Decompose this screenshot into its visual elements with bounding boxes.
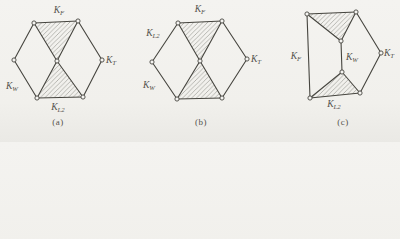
- subfigure-a: KFKTKWKL2: [5, 5, 117, 113]
- graph-vertex: [220, 19, 224, 23]
- graph-vertex: [55, 59, 59, 63]
- hatched-face: [34, 21, 78, 61]
- graph-vertex: [305, 12, 309, 16]
- graph-vertex: [354, 10, 358, 14]
- graph-vertex: [100, 58, 104, 62]
- graph-vertex: [340, 70, 344, 74]
- graph-vertex: [150, 60, 154, 64]
- hatched-face: [37, 61, 83, 98]
- graph-edge: [307, 14, 310, 98]
- graph-edge: [14, 23, 34, 60]
- graph-vertex: [35, 96, 39, 100]
- graph-edge: [78, 21, 102, 60]
- graph-vertex: [76, 19, 80, 23]
- graph-vertex: [32, 21, 36, 25]
- graph-label-KW: KW: [345, 52, 359, 63]
- graph-vertex: [245, 57, 249, 61]
- graph-edge: [222, 59, 247, 98]
- graph-edge: [83, 60, 102, 97]
- graph-label-KF: KF: [290, 51, 302, 62]
- graph-vertex: [358, 91, 362, 95]
- graph-vertex: [308, 96, 312, 100]
- graph-vertex: [198, 59, 202, 63]
- hatched-face: [178, 21, 222, 61]
- graph-edge: [14, 60, 37, 98]
- graph-edge: [341, 41, 342, 72]
- subfigure-c: KFKWKTKL2: [290, 10, 396, 110]
- hatched-face: [177, 61, 222, 99]
- subfigure-caption-c: (c): [337, 117, 349, 127]
- graph-edge: [152, 62, 177, 99]
- graph-label-KL2: KL2: [50, 102, 65, 113]
- graph-label-KF: KF: [53, 5, 65, 16]
- graph-label-KL2: KL2: [326, 99, 341, 110]
- graph-label-KT: KT: [383, 48, 395, 59]
- subfigure-caption-b: (b): [195, 117, 207, 127]
- graph-label-KT: KT: [250, 54, 262, 65]
- graph-vertex: [339, 39, 343, 43]
- graph-label-KL2: KL2: [145, 28, 160, 39]
- graph-vertex: [379, 51, 383, 55]
- graph-edge: [356, 12, 381, 53]
- graph-vertex: [81, 95, 85, 99]
- graph-vertex: [12, 58, 16, 62]
- graph-edge: [222, 21, 247, 59]
- graph-label-KT: KT: [105, 55, 117, 66]
- graph-vertex: [176, 21, 180, 25]
- graph-figure: KFKTKWKL2KFKL2KWKTKFKWKTKL2 (a) (b) (c): [0, 0, 400, 142]
- graph-vertex: [175, 97, 179, 101]
- subfigure-caption-a: (a): [52, 117, 64, 127]
- graph-vertex: [220, 96, 224, 100]
- graph-edge: [152, 23, 178, 62]
- graph-label-KW: KW: [5, 81, 19, 92]
- graph-edge: [360, 53, 381, 93]
- graph-label-KW: KW: [142, 80, 156, 91]
- subfigure-b: KFKL2KWKT: [142, 4, 262, 101]
- graph-label-KF: KF: [194, 4, 206, 15]
